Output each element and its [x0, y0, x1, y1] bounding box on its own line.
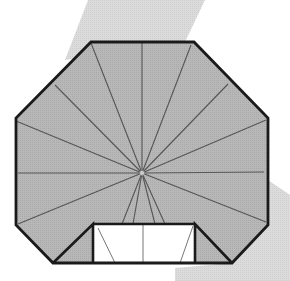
pocket-opening: [93, 224, 195, 264]
center-point: [140, 171, 145, 176]
origami-diagram: [0, 0, 290, 281]
pocket: [93, 224, 195, 264]
